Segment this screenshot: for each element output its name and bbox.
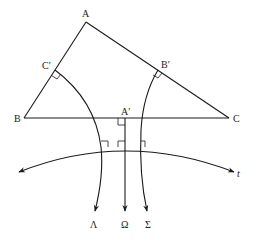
label-c-prime: C′: [42, 60, 51, 71]
right-angle-sigma-t: [141, 141, 145, 147]
right-angle-a-prime: [118, 118, 125, 125]
line-t: [19, 151, 234, 172]
label-omega: Ω: [121, 219, 128, 230]
hyperbolic-triangle-diagram: A B C C′ B′ A′ t Λ Ω Σ: [0, 0, 257, 247]
label-a-prime: A′: [121, 106, 130, 117]
right-angle-lambda-t: [101, 141, 108, 147]
label-sigma: Σ: [145, 219, 151, 230]
triangle-abc: [24, 22, 229, 118]
label-a: A: [82, 8, 90, 19]
label-b: B: [14, 113, 21, 124]
curve-sigma: [141, 70, 158, 211]
label-c: C: [233, 113, 240, 124]
right-angle-c-prime: [52, 74, 62, 79]
right-angle-omega-t: [118, 141, 125, 147]
label-b-prime: B′: [161, 59, 170, 70]
curve-lambda: [55, 70, 102, 211]
label-lambda: Λ: [90, 219, 98, 230]
right-angle-marks: [52, 73, 163, 147]
label-t: t: [237, 168, 240, 179]
